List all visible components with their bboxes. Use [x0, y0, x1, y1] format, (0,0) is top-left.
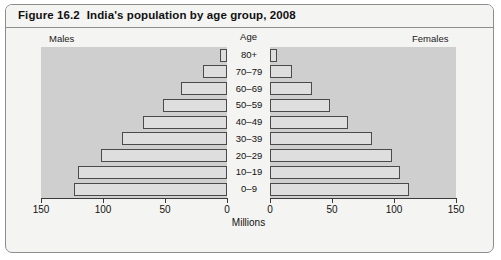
bar-row [270, 81, 456, 98]
bar-males-7079 [203, 65, 227, 78]
bar-males-80+ [220, 49, 227, 62]
x-axis-title: Millions [232, 217, 265, 228]
axis-tick-label: 50 [326, 204, 337, 215]
axis-tick-label: 0 [267, 204, 273, 215]
bar-males-4049 [143, 116, 227, 129]
bar-females-4049 [270, 116, 348, 129]
age-label: 0–9 [228, 181, 270, 198]
age-axis-title: Age [240, 31, 257, 42]
bar-row [41, 47, 227, 64]
bar-row [270, 97, 456, 114]
figure-number: Figure 16.2 [18, 9, 80, 21]
bar-males-6069 [181, 82, 227, 95]
bar-group-males [41, 47, 227, 198]
axis-tick [332, 199, 333, 203]
age-label: 50–59 [228, 97, 270, 114]
axis-tick [103, 199, 104, 203]
axis-tick-label: 0 [224, 204, 230, 215]
bar-males-5059 [163, 99, 227, 112]
bar-row [270, 114, 456, 131]
x-axis-males [41, 198, 228, 199]
axis-tick [270, 199, 271, 203]
axis-tick-label: 100 [95, 204, 112, 215]
bar-females-09 [270, 183, 409, 196]
bar-row [270, 131, 456, 148]
bar-group-females [270, 47, 456, 198]
population-pyramid-chart: Males Females Age 80+70–7960–6950–5940–4… [6, 28, 495, 253]
bar-row [41, 131, 227, 148]
bar-females-3039 [270, 132, 372, 145]
bar-row [41, 81, 227, 98]
axis-tick [227, 199, 228, 203]
axis-tick [41, 199, 42, 203]
bar-row [41, 114, 227, 131]
bar-row [41, 97, 227, 114]
age-label: 20–29 [228, 148, 270, 165]
figure-title-text: India's population by age group, 2008 [87, 9, 296, 21]
bar-females-2029 [270, 149, 392, 162]
bar-row [41, 164, 227, 181]
bar-row [270, 181, 456, 198]
bar-males-09 [74, 183, 227, 196]
bar-row [270, 47, 456, 64]
age-label: 10–19 [228, 164, 270, 181]
age-label: 80+ [228, 47, 270, 64]
age-label: 30–39 [228, 131, 270, 148]
bar-females-80+ [270, 49, 277, 62]
bar-males-3039 [122, 132, 227, 145]
bar-females-6069 [270, 82, 312, 95]
bar-females-5059 [270, 99, 330, 112]
axis-tick-label: 150 [33, 204, 50, 215]
bar-males-1019 [78, 166, 227, 179]
axis-tick [394, 199, 395, 203]
bar-males-2029 [101, 149, 227, 162]
bar-row [41, 181, 227, 198]
axis-tick-label: 150 [448, 204, 465, 215]
page-title: Figure 16.2India's population by age gro… [18, 9, 296, 21]
age-category-labels: 80+70–7960–6950–5940–4930–3920–2910–190–… [228, 47, 270, 198]
axis-tick [165, 199, 166, 203]
x-axis-females [270, 198, 457, 199]
bar-females-7079 [270, 65, 292, 78]
bar-females-1019 [270, 166, 400, 179]
age-label: 40–49 [228, 114, 270, 131]
bar-row [270, 148, 456, 165]
figure-title-bar: Figure 16.2India's population by age gro… [6, 5, 493, 28]
bar-row [41, 64, 227, 81]
figure-card: Figure 16.2India's population by age gro… [5, 4, 494, 253]
axis-tick-label: 100 [386, 204, 403, 215]
series-label-males: Males [49, 33, 74, 44]
axis-tick [456, 199, 457, 203]
axis-tick-label: 50 [159, 204, 170, 215]
series-label-females: Females [412, 33, 448, 44]
age-label: 60–69 [228, 81, 270, 98]
bar-row [41, 148, 227, 165]
age-label: 70–79 [228, 64, 270, 81]
bar-row [270, 164, 456, 181]
bar-row [270, 64, 456, 81]
